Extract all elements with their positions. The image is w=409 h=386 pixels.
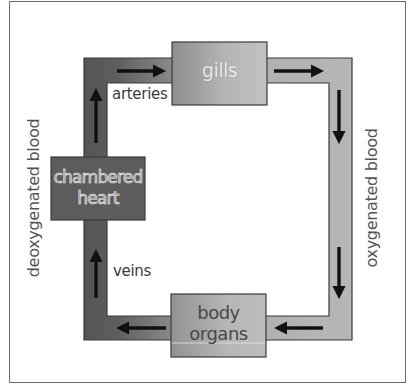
heart-label-line2: heart — [51, 188, 145, 209]
body-organs-label-line2: organs — [171, 323, 266, 344]
arteries-label: arteries — [112, 85, 167, 103]
heart-label-line1: chambered — [51, 167, 145, 188]
body-organs-label-line1: body — [171, 302, 266, 323]
deoxygenated-blood-label: deoxygenated blood — [24, 119, 43, 277]
heart-label: chambered heart — [51, 167, 145, 209]
oxygenated-blood-label: oxygenated blood — [362, 128, 381, 267]
veins-label: veins — [113, 262, 151, 280]
body-organs-label: body organs — [171, 302, 266, 344]
gills-label: gills — [172, 60, 267, 81]
